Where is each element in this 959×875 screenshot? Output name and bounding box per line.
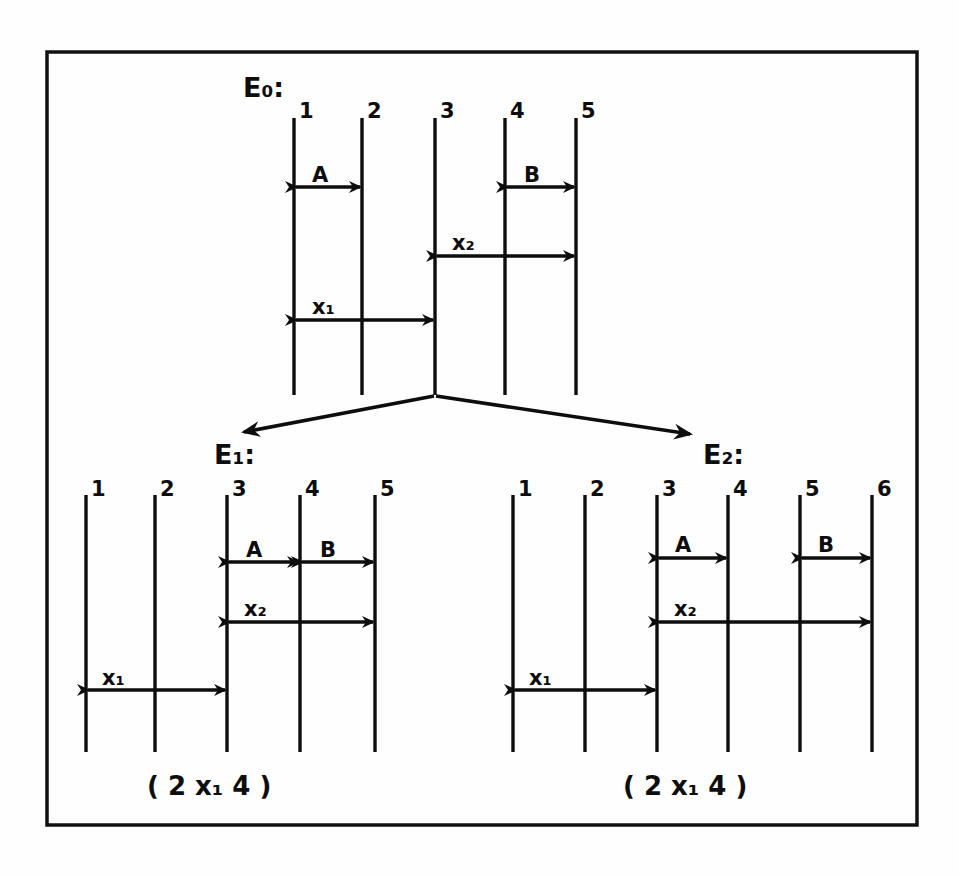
- figure-border: [47, 52, 917, 825]
- e0-line-label-2: 2: [367, 99, 382, 123]
- branch-arrow-right: [436, 396, 690, 434]
- e2-arrow-label-B: B: [818, 533, 834, 557]
- e2-line-label-4: 4: [733, 477, 748, 501]
- e0-line-label-3: 3: [440, 99, 455, 123]
- event-diagram-figure: E₀: 1 2 3 4 5 A B x₂ x₁: [0, 0, 959, 875]
- e1-line-label-5: 5: [380, 477, 395, 501]
- e2-line-label-2: 2: [590, 477, 605, 501]
- figure-page: E₀: 1 2 3 4 5 A B x₂ x₁: [0, 0, 959, 875]
- e1-caption: ( 2 x₁ 4 ): [147, 771, 271, 801]
- e2-arrow-label-A: A: [675, 533, 692, 557]
- e0-arrow-label-x2: x₂: [452, 231, 475, 255]
- e0-label: E₀:: [243, 72, 284, 103]
- e2-line-label-5: 5: [805, 477, 820, 501]
- e1-arrow-label-A: A: [246, 538, 263, 562]
- diagram-e0: E₀: 1 2 3 4 5 A B x₂ x₁: [243, 72, 596, 395]
- e1-line-label-2: 2: [160, 477, 175, 501]
- e2-caption: ( 2 x₁ 4 ): [623, 771, 747, 801]
- e1-arrow-label-x2: x₂: [244, 597, 267, 621]
- e0-line-label-1: 1: [299, 99, 314, 123]
- e1-arrow-label-B: B: [320, 538, 336, 562]
- e2-line-label-6: 6: [877, 477, 892, 501]
- e2-line-label-1: 1: [518, 477, 533, 501]
- e0-arrow-label-x1: x₁: [312, 295, 335, 319]
- e2-line-label-3: 3: [662, 477, 677, 501]
- e2-label: E₂:: [703, 439, 744, 470]
- branch-arrows: [244, 396, 690, 434]
- e1-line-label-1: 1: [91, 477, 106, 501]
- branch-arrow-left: [244, 396, 434, 432]
- e0-arrow-label-A: A: [312, 163, 329, 187]
- e2-arrow-label-x2: x₂: [674, 597, 697, 621]
- e1-label: E₁:: [214, 439, 255, 470]
- diagram-e2: E₂: 1 2 3 4 5 6 A B x₂ x₁ ( 2: [513, 439, 892, 801]
- e0-line-label-5: 5: [581, 99, 596, 123]
- diagram-e1: E₁: 1 2 3 4 5 A B x₂ x₁ ( 2 x₁ 4 ): [86, 439, 395, 801]
- e0-line-label-4: 4: [510, 99, 525, 123]
- e1-line-label-4: 4: [305, 477, 320, 501]
- e0-arrow-label-B: B: [524, 163, 540, 187]
- e2-arrow-label-x1: x₁: [529, 666, 552, 690]
- e1-arrow-label-x1: x₁: [102, 666, 125, 690]
- e1-line-label-3: 3: [232, 477, 247, 501]
